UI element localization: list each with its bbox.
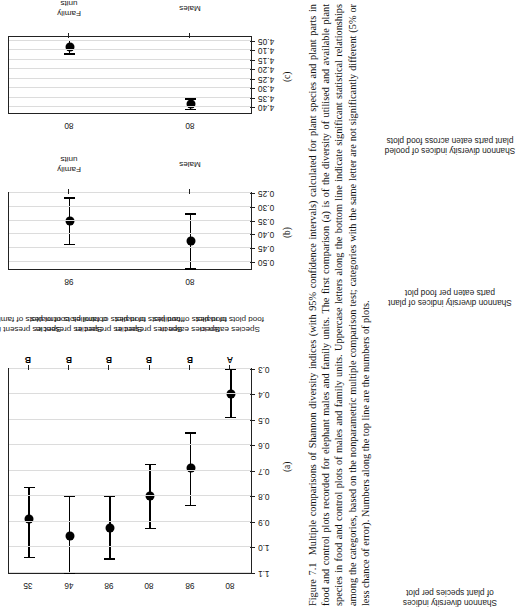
category-label-line: control plots of families <box>0 315 69 324</box>
axis-tick <box>250 420 255 421</box>
category-label: Males <box>163 3 217 13</box>
panel-a-plot-box <box>8 368 252 574</box>
axis-tick <box>250 60 255 61</box>
error-bar-cap <box>24 557 35 559</box>
category-tick <box>229 365 230 370</box>
category-label: Species present incontrol plots of famil… <box>0 314 87 333</box>
category-label-line: Family <box>57 165 81 174</box>
category-label-line: Species present in <box>0 325 61 334</box>
axis-tick <box>250 193 255 194</box>
y-axis-tick-label: 1.1 <box>258 569 298 579</box>
sample-size-label: 80 <box>185 121 194 131</box>
axis-tick <box>250 262 255 263</box>
error-bar-cap <box>145 528 156 530</box>
axis-tick <box>250 395 255 396</box>
y-axis-tick-label: 0.9 <box>258 518 298 528</box>
error-bar-cap <box>64 244 75 246</box>
data-point <box>105 524 114 533</box>
sample-size-label: 80 <box>225 581 234 591</box>
category-label-line: Males <box>179 160 201 169</box>
panel-c-y-axis-label-line1: Shannon diversity indices of pooled <box>385 146 516 156</box>
error-bar-cap <box>185 213 196 215</box>
sample-size-label: 80 <box>145 581 154 591</box>
figure-caption-text: Multiple comparisons of Shannon diversit… <box>307 4 371 606</box>
gridline <box>9 470 251 471</box>
axis-tick <box>250 446 255 447</box>
figure-caption: Figure 7.1 Multiple comparisons of Shann… <box>300 0 372 610</box>
gridline <box>9 192 251 193</box>
sample-size-label: 98 <box>185 581 194 591</box>
sample-size-label: 35 <box>24 581 33 591</box>
gridline <box>9 220 251 221</box>
category-label-line: Males <box>179 4 201 13</box>
y-axis-tick-label: 0.3 <box>258 365 298 375</box>
y-axis-tick-label: 0.7 <box>258 467 298 477</box>
data-point <box>186 237 195 246</box>
gridline <box>9 368 251 369</box>
sample-size-label: 46 <box>64 581 73 591</box>
gridline <box>9 419 251 420</box>
error-bar-cap <box>24 487 35 489</box>
y-axis-tick-label: 4.30 <box>258 84 298 94</box>
axis-tick <box>250 522 255 523</box>
gridline <box>9 106 251 107</box>
y-axis-tick-label: 0.8 <box>258 493 298 503</box>
sample-size-label: 98 <box>104 581 113 591</box>
axis-tick <box>250 471 255 472</box>
gridline <box>9 521 251 522</box>
data-point <box>226 390 235 399</box>
y-axis-tick-label: 0.4 <box>258 391 298 401</box>
axis-tick <box>250 369 255 370</box>
category-tick <box>68 365 69 370</box>
error-bar-cap <box>104 558 115 560</box>
figure-number: Figure 7.1 <box>307 563 318 606</box>
y-axis-tick-label: 0.6 <box>258 442 298 452</box>
category-tick <box>149 365 150 370</box>
category-tick <box>189 33 190 38</box>
error-bar-cap <box>225 417 236 419</box>
figure-plot-area: Shannon diversity indices of plant speci… <box>0 0 300 610</box>
error-bar-cap <box>145 464 156 466</box>
gridline <box>9 97 251 98</box>
sample-size-label: 80 <box>185 277 194 287</box>
category-tick <box>189 189 190 194</box>
category-tick <box>189 365 190 370</box>
category-tick <box>108 365 109 370</box>
data-point <box>25 515 34 524</box>
data-point <box>65 532 74 541</box>
axis-tick <box>250 41 255 42</box>
y-axis-tick-label: 4.20 <box>258 65 298 75</box>
gridline <box>9 87 251 88</box>
axis-tick <box>250 248 255 249</box>
significance-letter: B <box>106 355 112 365</box>
axis-tick <box>250 548 255 549</box>
gridline <box>9 572 251 573</box>
y-axis-tick-label: 4.10 <box>258 46 298 56</box>
gridline <box>9 68 251 69</box>
y-axis-tick-label: 0.45 <box>258 244 298 254</box>
gridline <box>9 206 251 207</box>
category-label-line: Family <box>57 9 81 18</box>
significance-letter: A <box>227 355 233 365</box>
significance-letter: B <box>25 355 31 365</box>
y-axis-tick-label: 1.0 <box>258 544 298 554</box>
y-axis-tick-label: 0.5 <box>258 416 298 426</box>
axis-tick <box>250 573 255 574</box>
error-bar-cap <box>64 53 75 55</box>
error-bar-cap <box>185 109 196 111</box>
y-axis-tick-label: 4.40 <box>258 103 298 113</box>
axis-tick <box>250 98 255 99</box>
axis-tick <box>250 207 255 208</box>
data-point <box>186 464 195 473</box>
error-bar-cap <box>64 197 75 199</box>
gridline <box>9 233 251 234</box>
y-axis-tick-label: 0.25 <box>258 189 298 199</box>
panel-a-y-axis-label-line1: Shannon diversity indices <box>403 598 497 608</box>
error-bar-cap <box>185 432 196 434</box>
data-point <box>65 217 74 226</box>
category-label: Males <box>163 159 217 169</box>
category-label: Familyunits <box>42 0 96 18</box>
panel-b-y-axis-label-line1: Shannon diversity indices of plant <box>388 298 512 308</box>
